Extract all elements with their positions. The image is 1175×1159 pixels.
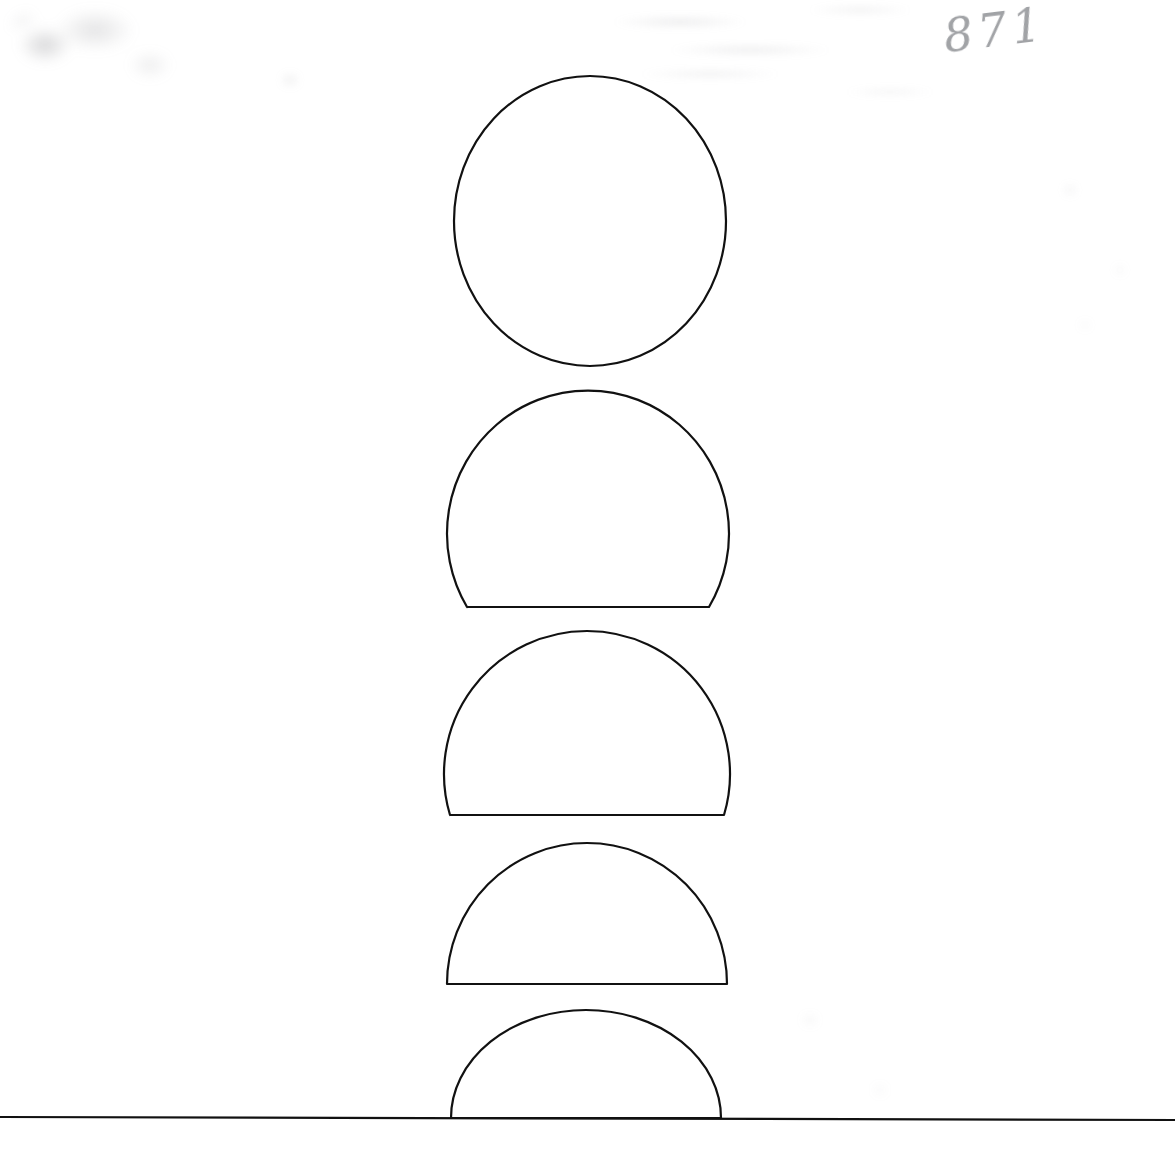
ground-line [0, 1117, 1175, 1120]
figure-drawing [0, 0, 1175, 1159]
shape-segment-shallow [451, 1010, 721, 1118]
ground-line-group [0, 1117, 1175, 1120]
shape-full-circle [454, 76, 726, 366]
shape-semicircle [447, 843, 727, 984]
scanned-page: 871 [0, 0, 1175, 1159]
shape-segment-large [447, 391, 729, 607]
shape-group [444, 76, 730, 1118]
shape-segment-medium [444, 631, 730, 815]
